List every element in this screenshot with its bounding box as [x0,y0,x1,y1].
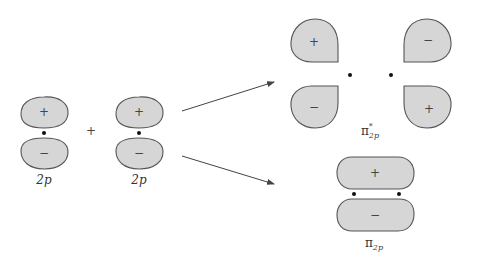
sign-plus: + [39,105,49,119]
nucleus-dot [137,131,141,135]
sign-plus: + [309,35,319,49]
sign-minus: − [134,146,144,160]
sign-plus: + [424,102,434,116]
nucleus-dot [389,73,393,77]
orbital-label: 2p [35,173,52,187]
atomic-orbital-2p-left: + − 2p [21,97,68,187]
sign-plus: + [370,166,380,180]
sign-plus: + [134,105,144,119]
sign-minus: − [309,100,319,114]
mo-diagram: + − 2p + + − 2p + − − + π*2p + [0,0,477,257]
sign-minus: − [423,33,433,47]
sign-minus: − [39,146,49,160]
atomic-orbital-2p-right: + − 2p [116,97,163,187]
arrow-to-bonding [182,156,274,184]
sign-minus: − [370,208,380,222]
nucleus-dot [42,131,46,135]
orbital-label: 2p [130,173,147,187]
antibonding-pi-star-orbital: + − − + π*2p [291,19,451,140]
arrow-to-antibonding [182,82,274,111]
nucleus-dot [352,192,356,196]
bonding-pi-orbital: + − π2p [337,157,414,252]
nucleus-dot [397,192,401,196]
nucleus-dot [348,73,352,77]
plus-combine-symbol: + [86,124,96,138]
bonding-label: π2p [365,236,383,252]
antibonding-label: π*2p [361,122,379,140]
